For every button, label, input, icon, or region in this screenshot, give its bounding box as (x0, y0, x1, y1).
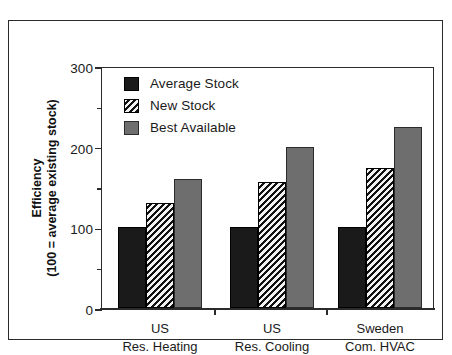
legend-item-average-stock: Average Stock (124, 76, 239, 91)
y-axis-title-line1: Efficiency (30, 158, 45, 217)
bar (258, 182, 286, 308)
y-tick-major-0 (95, 309, 102, 311)
x-tick-separator-2 (326, 308, 328, 315)
x-axis-group-label-line2: Com. HVAC (345, 338, 415, 355)
x-axis-group-label-line1: Sweden (345, 320, 415, 338)
bar (338, 227, 366, 308)
legend-label-average-stock: Average Stock (150, 76, 239, 91)
y-tick-minor-150 (97, 188, 102, 190)
y-axis-title-line2: (100 = average existing stock) (45, 99, 60, 277)
y-tick-label-300: 300 (70, 61, 93, 76)
bar (286, 147, 314, 308)
y-tick-major-100 (95, 229, 102, 231)
y-tick-label-0: 0 (85, 303, 93, 318)
x-axis-group-label-line2: Res. Heating (122, 338, 197, 355)
legend-swatch-average-stock (124, 77, 139, 91)
bar (394, 127, 422, 309)
legend-label-new-stock: New Stock (150, 98, 215, 113)
y-tick-major-200 (95, 148, 102, 150)
x-axis-group-label: USRes. Heating (122, 320, 197, 355)
bar (230, 227, 258, 308)
y-tick-minor-250 (97, 108, 102, 110)
x-axis-group-label: SwedenCom. HVAC (345, 320, 415, 355)
x-axis-group-label-line2: Res. Cooling (235, 338, 309, 355)
bar (118, 227, 146, 308)
x-tick-separator-1 (214, 308, 216, 315)
bar (366, 168, 394, 308)
y-tick-label-200: 200 (70, 141, 93, 156)
y-tick-major-300 (95, 67, 102, 69)
figure-border: Efficiency (100 = average existing stock… (8, 20, 443, 340)
legend-swatch-best-available (124, 121, 139, 135)
chart-legend: Average Stock New Stock Best Available (124, 76, 239, 135)
x-axis-group-label-line1: US (235, 320, 309, 338)
plot-area: Average Stock New Stock Best Available 0… (101, 67, 434, 309)
legend-label-best-available: Best Available (150, 120, 236, 135)
x-axis-group-label-line1: US (122, 320, 197, 338)
bar (174, 179, 202, 308)
bar (146, 203, 174, 308)
legend-swatch-new-stock (124, 99, 139, 113)
legend-item-new-stock: New Stock (124, 98, 239, 113)
legend-item-best-available: Best Available (124, 120, 239, 135)
y-axis-title: Efficiency (100 = average existing stock… (27, 67, 63, 309)
x-axis-group-label: USRes. Cooling (235, 320, 309, 355)
y-tick-label-100: 100 (70, 222, 93, 237)
y-tick-minor-50 (97, 269, 102, 271)
